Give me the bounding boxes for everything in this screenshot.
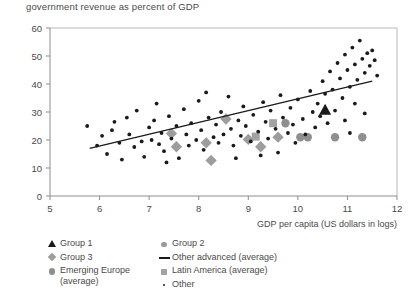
data-point-other [313, 126, 317, 130]
data-point-diamond [272, 132, 283, 143]
y-tick-label: 30 [31, 107, 42, 118]
data-point-other [353, 102, 357, 106]
legend-item-label: Emerging Europe (average) [60, 265, 130, 287]
data-point-other [184, 133, 188, 137]
legend-item[interactable]: Group 3 [46, 252, 154, 263]
data-point-other [182, 107, 186, 111]
legend-dot-icon [158, 279, 170, 290]
data-point-other [199, 128, 203, 132]
legend-marker-glyph [161, 242, 167, 248]
x-tick-label: 9 [246, 203, 251, 214]
legend-circle-icon [158, 238, 170, 249]
legend-item[interactable]: Group 1 [46, 238, 154, 249]
data-point-other [229, 127, 233, 131]
data-point-other [132, 145, 136, 149]
data-point-other [338, 77, 342, 81]
data-point-other [308, 89, 312, 93]
legend-marker-glyph [48, 240, 56, 247]
data-point-diamond [255, 141, 266, 152]
data-point-other [318, 114, 322, 118]
legend-marker-glyph [161, 269, 167, 275]
data-point-other [266, 137, 270, 141]
data-point-other [341, 96, 345, 100]
legend-diamond-icon [46, 252, 58, 263]
x-tick-label: 12 [392, 203, 403, 214]
data-point-circle [331, 133, 339, 141]
data-point-square [252, 133, 260, 141]
data-point-other [100, 134, 104, 138]
data-point-other [194, 138, 198, 142]
data-point-other [147, 126, 151, 130]
data-point-other [85, 124, 89, 128]
data-point-other [269, 109, 273, 113]
x-tick-label: 10 [293, 203, 304, 214]
data-point-circle [296, 133, 304, 141]
data-point-other [177, 156, 181, 160]
legend-item[interactable]: Latin America (average) [158, 265, 378, 276]
data-point-other [140, 140, 144, 144]
data-point-other [355, 78, 359, 82]
data-point-other [239, 134, 243, 138]
y-tick-label: 10 [31, 163, 42, 174]
data-point-other [127, 133, 131, 137]
data-point-other [289, 106, 293, 110]
data-point-other [157, 142, 161, 146]
data-point-other [321, 79, 325, 83]
data-point-other [259, 154, 263, 158]
legend-item-label: Group 2 [172, 238, 205, 249]
data-point-other [150, 138, 154, 142]
data-point-other [155, 102, 159, 106]
legend-marker-glyph [47, 253, 55, 261]
data-point-other [207, 116, 211, 120]
legend-item[interactable]: Other advanced (average) [158, 252, 378, 263]
data-point-other [311, 110, 315, 114]
legend-marker-glyph [49, 268, 56, 275]
data-point-other [142, 155, 146, 159]
legend-triangle-icon [46, 238, 58, 249]
data-point-other [363, 112, 367, 116]
data-point-other [241, 105, 245, 109]
data-point-other [197, 99, 201, 103]
x-tick-label: 6 [97, 203, 102, 214]
data-point-other [281, 116, 285, 120]
x-tick-label: 7 [146, 203, 151, 214]
data-point-triangle [319, 104, 331, 115]
data-point-other [328, 70, 332, 74]
legend-item[interactable]: Group 2 [158, 238, 378, 249]
data-point-circle [281, 119, 289, 127]
data-point-diamond [205, 155, 216, 166]
data-point-other [346, 68, 350, 72]
data-point-other [291, 123, 295, 127]
data-point-other [170, 137, 174, 141]
data-point-other [251, 113, 255, 117]
data-point-square [269, 119, 277, 127]
data-point-other [222, 133, 226, 137]
data-point-other [274, 127, 278, 131]
data-point-other [244, 124, 248, 128]
data-point-other [276, 151, 280, 155]
data-point-other [363, 71, 367, 75]
data-point-other [261, 100, 265, 104]
legend-circle-icon [46, 265, 58, 276]
legend-item[interactable]: Other [158, 279, 378, 290]
legend-marker-glyph [159, 257, 170, 259]
legend-column-left: Group 1Group 3Emerging Europe (average) [46, 238, 154, 290]
data-point-other [217, 141, 221, 145]
y-tick-label: 60 [31, 23, 42, 34]
data-point-other [333, 109, 337, 113]
data-point-circle [358, 133, 366, 141]
data-point-other [236, 119, 240, 123]
legend-column-right: Group 2Other advanced (average)Latin Ame… [158, 238, 378, 292]
y-tick-label: 50 [31, 51, 42, 62]
x-tick-label: 5 [47, 203, 52, 214]
data-point-other [293, 141, 297, 145]
data-point-other [167, 114, 171, 118]
y-tick-label: 0 [37, 191, 42, 202]
data-point-other [303, 133, 307, 137]
x-tick-label: 11 [342, 203, 352, 214]
legend-item-label: Group 3 [60, 252, 93, 263]
data-point-other [249, 140, 253, 144]
legend-item[interactable]: Emerging Europe (average) [46, 265, 154, 287]
data-point-other [358, 39, 362, 43]
x-tick-label: 8 [196, 203, 201, 214]
